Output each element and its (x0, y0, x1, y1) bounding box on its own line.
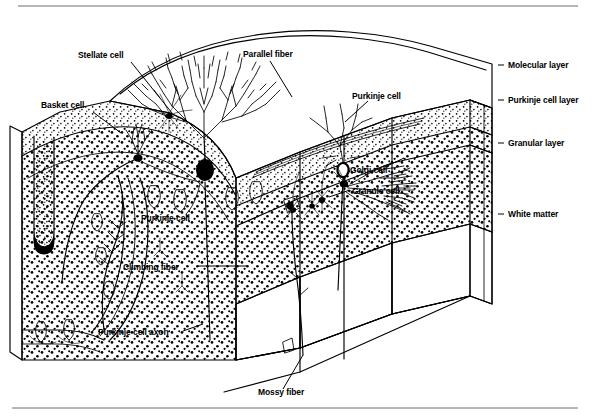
label-purkinje-cell-left: Purkinje cell (141, 213, 190, 223)
label-molecular-layer: Molecular layer (508, 60, 569, 70)
golgi-soma (340, 180, 348, 187)
basket-soma (133, 154, 142, 162)
cerebellar-cortex-diagram: Stellate cellBasket cellParallel fiberPu… (0, 0, 594, 418)
label-white-matter: White matter (508, 209, 559, 219)
label-basket-cell: Basket cell (41, 100, 84, 110)
label-purkinje-cell-layer: Purkinje cell layer (508, 95, 579, 105)
stellate-soma (166, 113, 173, 119)
label-granular-layer: Granular layer (508, 138, 565, 148)
purkinje-soma (196, 159, 214, 181)
label-parallel-fiber: Parallel fiber (243, 49, 293, 59)
label-climbing-fiber: Climbing fiber (123, 262, 180, 272)
label-stellate-cell: Stellate cell (78, 50, 123, 60)
label-purkinje-cell-axon: Purkinje cell axon (98, 327, 168, 337)
label-purkinje-cell-right: Purkinje cell (352, 91, 401, 101)
granule-soma-1 (319, 197, 325, 203)
figure-canvas: Stellate cellBasket cellParallel fiberPu… (0, 0, 594, 418)
label-mossy-fiber: Mossy fiber (258, 387, 305, 397)
label-granule-cell: Granule cell (352, 186, 399, 196)
granule-soma-3 (309, 203, 315, 208)
label-golgi-cell: Golgi cell (350, 165, 387, 175)
